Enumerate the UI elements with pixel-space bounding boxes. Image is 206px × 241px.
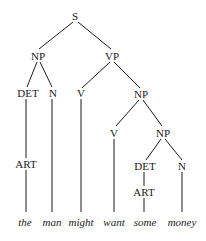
tree-nodes: S NP VP DET N V NP ART V NP DET N ART [15, 10, 186, 198]
edge-np2-v [116, 100, 139, 126]
edge-s-vp [78, 22, 111, 49]
syntax-tree: S NP VP DET N V NP ART V NP DET N ART th… [0, 0, 206, 241]
word-the: the [18, 216, 32, 228]
node-n-object: N [178, 160, 186, 172]
node-np-subject: NP [31, 50, 45, 62]
node-np-object: NP [156, 127, 170, 139]
edge-np-det [27, 62, 37, 87]
node-vp: VP [105, 50, 119, 62]
word-money: money [168, 216, 197, 228]
node-np-object-phrase: NP [134, 88, 148, 100]
edge-np3-n [165, 139, 182, 160]
node-det-object: DET [134, 160, 156, 172]
node-art-object: ART [133, 186, 155, 198]
edge-vp-np [114, 62, 140, 88]
node-det: DET [17, 87, 39, 99]
word-might: might [68, 216, 94, 228]
edge-np3-det [146, 139, 161, 160]
edge-vp-v [82, 62, 110, 88]
word-some: some [134, 216, 157, 228]
word-want: want [103, 216, 125, 228]
node-n: N [49, 87, 57, 99]
edge-np2-np3 [143, 100, 162, 126]
word-man: man [43, 216, 62, 228]
edge-s-np [39, 22, 73, 49]
node-s: S [72, 10, 78, 22]
edge-np-n [40, 62, 52, 87]
node-art: ART [15, 158, 37, 170]
tree-words: the man might want some money [18, 216, 196, 228]
node-v-modal: V [77, 87, 85, 99]
node-v-main: V [110, 127, 118, 139]
